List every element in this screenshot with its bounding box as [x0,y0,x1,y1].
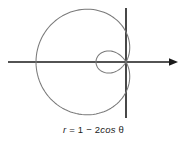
x-axis-arrow-right-icon [169,58,178,66]
caption-function: cos [100,124,115,135]
caption-angle: θ [118,124,123,135]
polar-limacon-figure: r = 1 − 2cos θ [0,0,187,146]
axes-group [8,8,178,118]
equation-caption: r = 1 − 2cos θ [0,124,187,135]
